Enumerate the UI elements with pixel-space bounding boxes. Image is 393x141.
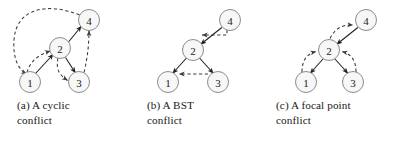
- caption-line-2: conflict: [276, 113, 393, 128]
- figure-panel-b: 4 2 1 3 (b) A BST conflict: [130, 0, 260, 141]
- graph-node-1[interactable]: 1: [158, 72, 179, 93]
- panel-caption-a: (a) A cyclic conflict: [0, 98, 147, 127]
- graph-node-3[interactable]: 3: [208, 72, 229, 93]
- dashed-edge-4-to-2: [202, 30, 227, 35]
- graph-node-4[interactable]: 4: [79, 10, 100, 31]
- graph-node-3[interactable]: 3: [343, 72, 364, 93]
- graph-node-label: 4: [227, 15, 233, 27]
- graph-node-label: 3: [350, 77, 356, 89]
- solid-edge-2-to-3: [66, 58, 76, 74]
- graph-node-2[interactable]: 2: [183, 40, 204, 61]
- graph-node-label: 1: [165, 77, 171, 89]
- graph-diagram-c: 4 2 1 3: [260, 0, 393, 98]
- panel-caption-b: (b) A BST conflict: [130, 98, 277, 127]
- graph-node-label: 2: [190, 45, 196, 57]
- graph-diagram-b: 4 2 1 3: [130, 0, 260, 98]
- node-group-c: 4 2 1 3: [296, 10, 377, 93]
- graph-node-label: 2: [57, 43, 63, 55]
- graph-node-4[interactable]: 4: [220, 10, 241, 31]
- figure-panel-a: 4 2 1 3 (a) A cyclic conflict: [0, 0, 130, 141]
- solid-edge-2-to-3: [200, 58, 214, 74]
- graph-node-2[interactable]: 2: [50, 38, 71, 59]
- caption-line-2: conflict: [17, 113, 147, 128]
- solid-edge-4-to-2: [337, 28, 358, 45]
- graph-node-label: 4: [86, 15, 92, 27]
- solid-edge-2-to-3: [335, 59, 348, 74]
- graph-node-4[interactable]: 4: [356, 10, 377, 31]
- graph-node-label: 2: [326, 45, 332, 57]
- dashed-edge-2-to-3: [57, 58, 67, 81]
- solid-edge-2-to-1: [310, 59, 323, 74]
- figure-container: 4 2 1 3 (a) A cyclic conflict: [0, 0, 393, 141]
- graph-diagram-a: 4 2 1 3: [0, 0, 130, 98]
- graph-node-label: 3: [76, 77, 82, 89]
- solid-edge-2-to-1: [173, 58, 187, 74]
- caption-line-1: (a) A cyclic: [17, 98, 147, 113]
- graph-node-2[interactable]: 2: [319, 40, 340, 61]
- panel-caption-c: (c) A focal point conflict: [260, 98, 393, 127]
- graph-node-1[interactable]: 1: [296, 72, 317, 93]
- graph-node-label: 3: [215, 77, 221, 89]
- figure-panel-c: 4 2 1 3 (c) A focal point conflict: [260, 0, 393, 141]
- dashed-edge-3-to-4: [84, 31, 89, 73]
- graph-node-1[interactable]: 1: [20, 72, 41, 93]
- graph-node-label: 1: [27, 77, 33, 89]
- solid-edge-2-to-4: [69, 26, 82, 42]
- graph-node-label: 1: [303, 77, 309, 89]
- solid-edge-4-to-2: [201, 28, 222, 45]
- caption-line-2: conflict: [147, 113, 277, 128]
- node-group-b: 4 2 1 3: [158, 10, 241, 93]
- graph-node-3[interactable]: 3: [69, 72, 90, 93]
- dashed-edge-2-to-4: [330, 25, 353, 39]
- node-group-a: 4 2 1 3: [20, 10, 100, 93]
- caption-line-1: (b) A BST: [147, 98, 277, 113]
- graph-node-label: 4: [363, 15, 369, 27]
- caption-line-1: (c) A focal point: [276, 98, 393, 113]
